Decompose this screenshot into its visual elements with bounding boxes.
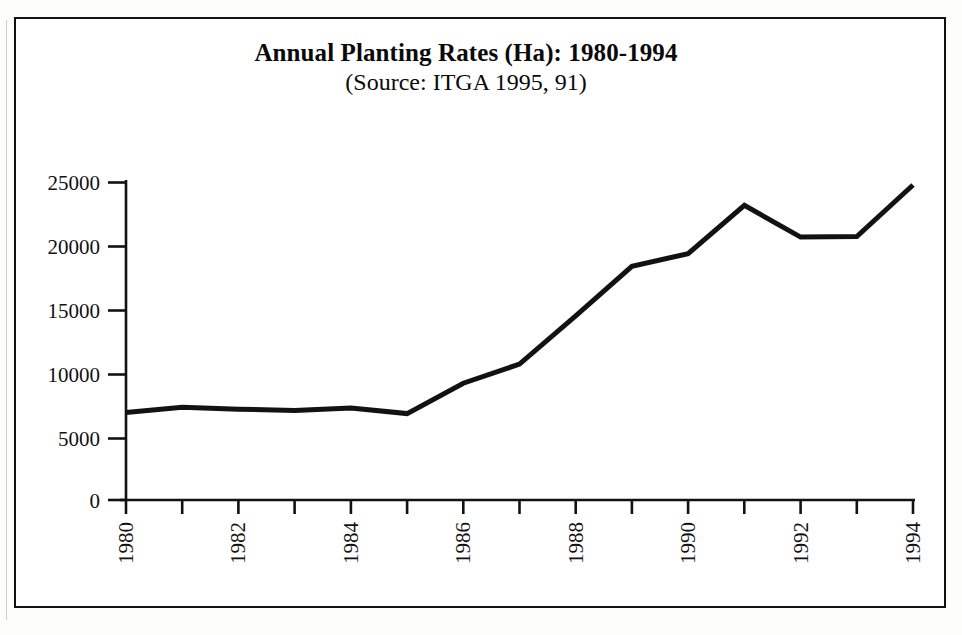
- x-axis-ticks: [126, 500, 913, 514]
- y-tick-label-25000: 25000: [48, 171, 101, 195]
- data-series-line: [126, 185, 913, 414]
- x-tick-label-1984: 1984: [339, 522, 363, 565]
- x-tick-label-1986: 1986: [451, 522, 475, 564]
- y-tick-label-10000: 10000: [48, 363, 101, 387]
- chart-plot-area: 25000 20000 15000 10000 5000 0: [0, 0, 962, 635]
- y-axis-tick-labels: 25000 20000 15000 10000 5000 0: [48, 171, 101, 513]
- y-tick-label-15000: 15000: [48, 299, 101, 323]
- x-tick-label-1982: 1982: [226, 522, 250, 564]
- y-tick-label-5000: 5000: [58, 427, 100, 451]
- x-tick-label-1994: 1994: [901, 522, 925, 565]
- axis-lines: [120, 180, 915, 500]
- scanned-page: Annual Planting Rates (Ha): 1980-1994 (S…: [0, 0, 962, 635]
- y-tick-label-20000: 20000: [48, 235, 101, 259]
- x-tick-label-1988: 1988: [564, 522, 588, 564]
- y-tick-label-0: 0: [90, 489, 101, 513]
- x-axis-tick-labels: 1980 1982 1984 1986 1988 1990 1992 1994: [114, 522, 925, 565]
- x-tick-label-1980: 1980: [114, 522, 138, 564]
- y-axis-ticks: [108, 183, 126, 501]
- x-tick-label-1992: 1992: [789, 522, 813, 564]
- x-tick-label-1990: 1990: [676, 522, 700, 564]
- line-chart-svg: 25000 20000 15000 10000 5000 0: [0, 0, 962, 635]
